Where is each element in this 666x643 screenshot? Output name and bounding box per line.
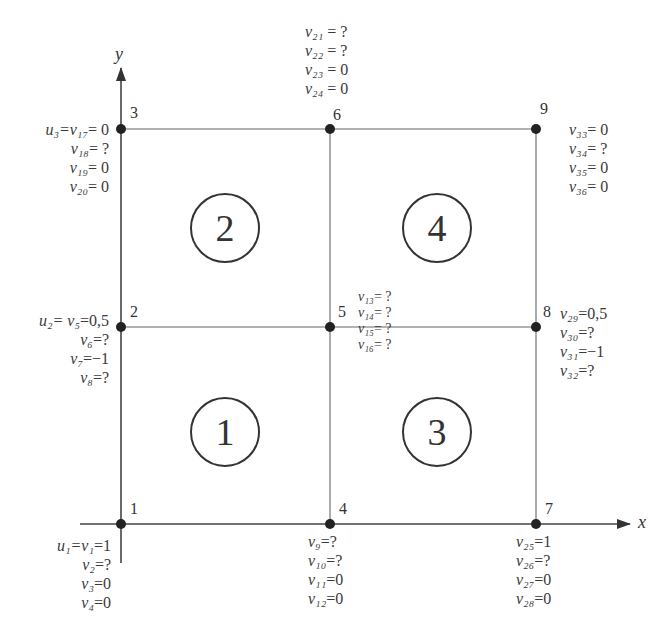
condition-line: v₃₄= ?	[569, 139, 608, 158]
node-5-conditions: v₁₃= ? v₁₄= ? v₁₅= ? v₁₆= ?	[358, 289, 392, 353]
node-5-dot	[325, 322, 335, 332]
condition-line: v₉=?	[308, 532, 343, 551]
node-3-number: 3	[130, 104, 138, 122]
condition-line: v₁₃= ?	[358, 289, 392, 305]
condition-line: v₈=?	[39, 368, 109, 387]
condition-line: v₁₀=?	[308, 551, 343, 570]
condition-line: v₃₂=?	[560, 361, 607, 380]
node-3-conditions: u₃=v₁₇= 0 v₁₈= ? v₁₉= 0 v₂₀= 0	[45, 120, 109, 196]
condition-line: v₂₄ = 0	[305, 79, 348, 98]
node-6-number: 6	[333, 106, 341, 124]
node-1-dot	[116, 519, 126, 529]
node-6-dot	[325, 124, 335, 134]
condition-line: v₂₇=0	[516, 570, 551, 589]
node-9-number: 9	[540, 100, 548, 118]
condition-line: v₃₃= 0	[569, 120, 608, 139]
condition-line: v₁₈= ?	[45, 139, 109, 158]
y-axis-label: y	[115, 44, 123, 65]
node-4-number: 4	[339, 500, 347, 518]
node-1-conditions: u₁=v₁=1 v₂=? v₃=0 v₄=0	[57, 536, 111, 612]
node-2-dot	[116, 322, 126, 332]
condition-line: v₃₁=−1	[560, 342, 607, 361]
condition-line: v₂₈=0	[516, 589, 551, 608]
node-2-conditions: u₂= v₅=0,5 v₆=? v₇=−1 v₈=?	[39, 311, 109, 387]
node-4-dot	[325, 519, 335, 529]
condition-line: v₂₅=1	[516, 532, 551, 551]
condition-line: v₃=0	[57, 574, 111, 593]
element-3-badge: 3	[402, 397, 472, 467]
condition-line: v₂₃ = 0	[305, 60, 348, 79]
node-2-number: 2	[130, 303, 138, 321]
condition-line: v₁₁=0	[308, 570, 343, 589]
condition-line: v₁₉= 0	[45, 158, 109, 177]
condition-line: v₃₀=?	[560, 323, 607, 342]
condition-line: v₇=−1	[39, 349, 109, 368]
condition-line: v₁₄= ?	[358, 305, 392, 321]
element-2-badge: 2	[190, 193, 260, 263]
condition-line: v₁₅= ?	[358, 321, 392, 337]
node-8-conditions: v₂₉=0,5 v₃₀=? v₃₁=−1 v₃₂=?	[560, 304, 607, 380]
x-axis-label: x	[638, 512, 646, 533]
element-1-badge: 1	[190, 397, 260, 467]
condition-line: v₃₆= 0	[569, 177, 608, 196]
node-3-dot	[116, 124, 126, 134]
condition-line: v₃₅= 0	[569, 158, 608, 177]
node-6-conditions: v₂₁ = ? v₂₂ = ? v₂₃ = 0 v₂₄ = 0	[305, 22, 348, 98]
condition-line: v₁₆= ?	[358, 337, 392, 353]
condition-line: v₄=0	[57, 593, 111, 612]
node-1-number: 1	[130, 500, 138, 518]
node-7-conditions: v₂₅=1 v₂₆=? v₂₇=0 v₂₈=0	[516, 532, 551, 608]
element-4-badge: 4	[402, 193, 472, 263]
node-5-number: 5	[338, 303, 346, 321]
condition-line: u₂= v₅=0,5	[39, 311, 109, 330]
node-8-number: 8	[543, 303, 551, 321]
node-7-number: 7	[545, 500, 553, 518]
condition-line: v₂₁ = ?	[305, 22, 348, 41]
condition-line: v₂=?	[57, 555, 111, 574]
condition-line: v₂₂ = ?	[305, 41, 348, 60]
condition-line: v₂₀= 0	[45, 177, 109, 196]
node-7-dot	[531, 519, 541, 529]
node-8-dot	[531, 322, 541, 332]
condition-line: v₂₆=?	[516, 551, 551, 570]
condition-line: v₁₂=0	[308, 589, 343, 608]
node-9-dot	[531, 124, 541, 134]
condition-line: v₆=?	[39, 330, 109, 349]
node-9-conditions: v₃₃= 0 v₃₄= ? v₃₅= 0 v₃₆= 0	[569, 120, 608, 196]
node-4-conditions: v₉=? v₁₀=? v₁₁=0 v₁₂=0	[308, 532, 343, 608]
condition-line: u₃=v₁₇= 0	[45, 120, 109, 139]
condition-line: v₂₉=0,5	[560, 304, 607, 323]
condition-line: u₁=v₁=1	[57, 536, 111, 555]
